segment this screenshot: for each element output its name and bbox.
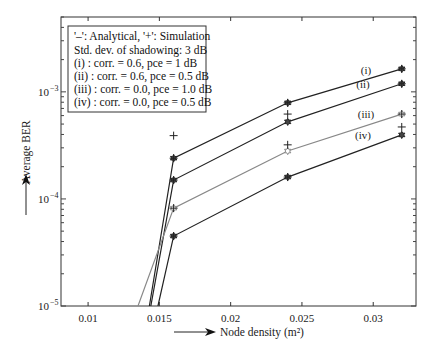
curve-label-3: (iii): [358, 108, 375, 121]
legend-line-4: (ii) : corr. = 0.6, pce = 0.5 dB: [74, 70, 209, 83]
x-tick-label: 0.02: [221, 312, 240, 324]
simulation-plus-icon: [398, 123, 406, 131]
legend-line-3: (i) : corr. = 0.6, pce = 1 dB: [74, 57, 197, 70]
legend-line-2: Std. dev. of shadowing: 3 dB: [74, 44, 207, 57]
y-axis-label-text: Average BER: [20, 120, 33, 184]
simulation-plus-icon: [398, 65, 406, 73]
y-tick-label: 10: [38, 193, 50, 205]
simulation-plus-icon: [170, 232, 178, 240]
simulation-plus-icon: [284, 173, 292, 181]
x-tick-label: 0.03: [364, 312, 384, 324]
legend-line-1: '–': Analytical, '+': Simulation: [74, 30, 210, 43]
curve-label-1: (i): [361, 64, 372, 77]
legend: '–': Analytical, '+': Simulation Std. de…: [68, 26, 212, 112]
x-tick-label: 0.025: [290, 312, 315, 324]
y-tick-label: 10: [38, 86, 50, 98]
simulation-plus-icon: [170, 132, 178, 140]
legend-line-6: (iv) : corr. = 0.0, pce = 0.5 dB: [74, 96, 212, 109]
ber-vs-node-density-chart: 0.010.0150.020.0250.0310−510−410−3 (i)(i…: [0, 0, 432, 357]
simulation-plus-icon: [398, 80, 406, 88]
legend-line-5: (iii) : corr. = 0.0, pce = 1.0 dB: [74, 83, 212, 96]
simulation-plus-icon: [284, 110, 292, 118]
x-axis-label-text: Node density (m²): [220, 326, 304, 339]
series-line-3: [138, 114, 402, 306]
x-tick-label: 0.01: [78, 312, 97, 324]
simulation-plus-icon: [170, 154, 178, 162]
y-tick-exponent: −3: [50, 84, 59, 93]
simulation-plus-icon: [170, 204, 178, 212]
simulation-plus-icon: [284, 99, 292, 107]
analytical-marker-icon: [285, 118, 291, 125]
x-tick-label: 0.015: [147, 312, 172, 324]
curve-label-4: (iv): [355, 129, 371, 142]
y-axis-label: Average BER: [20, 120, 33, 215]
simulation-plus-icon: [398, 110, 406, 118]
x-axis-label: Node density (m²): [174, 326, 304, 339]
y-tick-label: 10: [38, 300, 50, 312]
simulation-plus-icon: [284, 141, 292, 149]
y-tick-exponent: −5: [50, 298, 59, 307]
curve-labels: (i)(ii)(iii)(iv): [355, 64, 375, 142]
y-tick-exponent: −4: [50, 191, 59, 200]
analytical-marker-icon: [399, 131, 405, 138]
curve-label-2: (ii): [356, 78, 370, 91]
series-line-4: [158, 135, 402, 306]
